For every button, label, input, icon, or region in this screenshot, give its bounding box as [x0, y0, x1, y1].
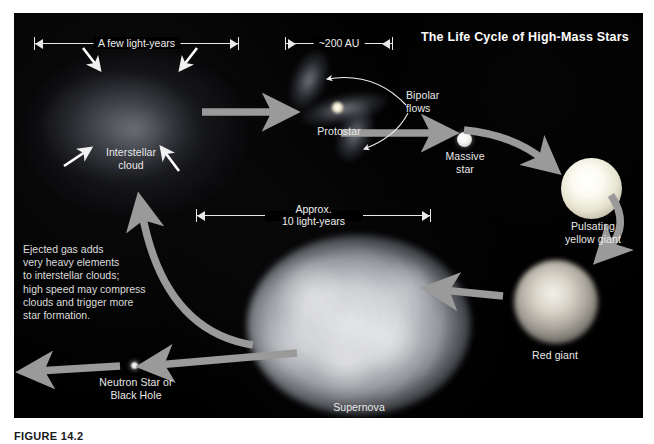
scale-approx-10-light-years: Approx. 10 light-years: [196, 207, 431, 223]
scale-cap-left: [285, 37, 286, 50]
scale-label: ~200 AU: [314, 37, 365, 49]
page-title: The Life Cycle of High-Mass Stars: [421, 30, 629, 44]
pulsating-yellow-giant-object: [561, 158, 622, 219]
scale-arrowhead-right: [230, 39, 238, 49]
red-giant-object: [514, 260, 598, 344]
scale-cap-right: [392, 37, 393, 50]
figure-caption: FIGURE 14.2: [14, 430, 83, 442]
scale-arrowhead-inward-right: [382, 39, 390, 49]
scale-label: Approx. 10 light-years: [277, 203, 350, 227]
scale-arrowhead-right: [422, 211, 430, 221]
protostar-object: [286, 49, 400, 161]
label-neutron-star-or-black-hole: Neutron Star or Black Hole: [80, 376, 192, 401]
label-bipolar-flows: Bipolar flows: [406, 89, 476, 114]
scale-200-au: ~200 AU: [285, 35, 393, 51]
diagram-panel: A few light-years ~200 AU Approx. 10 lig…: [14, 13, 643, 418]
label-interstellar-cloud: Interstellar cloud: [76, 146, 186, 171]
scale-arrowhead-inward-left: [288, 39, 296, 49]
scale-arrowhead-left: [35, 39, 43, 49]
neutron-star-object: [130, 361, 139, 370]
protostar-core: [331, 101, 344, 114]
scale-cap-right: [238, 37, 239, 50]
label-massive-star: Massive star: [424, 150, 506, 175]
figure-page: A few light-years ~200 AU Approx. 10 lig…: [0, 0, 654, 444]
supernova-filaments: [267, 249, 447, 399]
label-pulsating-yellow-giant: Pulsating yellow giant: [538, 220, 643, 245]
scale-label: A few light-years: [93, 37, 180, 49]
scale-arrowhead-left: [197, 211, 205, 221]
scale-a-few-light-years: A few light-years: [34, 35, 239, 51]
annotation-ejected-gas: Ejected gas adds very heavy elements to …: [23, 243, 198, 322]
scale-cap-right: [430, 209, 431, 222]
label-supernova: Supernova: [304, 401, 414, 414]
label-protostar: Protostar: [294, 125, 384, 138]
label-red-giant: Red giant: [509, 349, 601, 362]
massive-star-object: [457, 132, 472, 147]
arrow-neutron-star-outflow: [37, 366, 120, 371]
